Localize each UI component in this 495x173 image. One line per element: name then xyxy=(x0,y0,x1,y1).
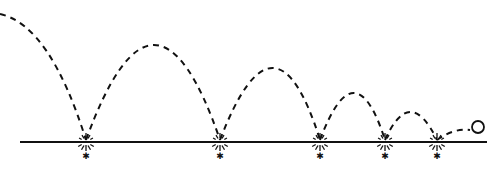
trajectory-segment-5 xyxy=(385,112,437,140)
ball-trajectory xyxy=(0,14,470,140)
diagram-canvas: ✱✱✱✱✱ xyxy=(0,0,495,173)
trajectory-segment-2 xyxy=(86,45,220,140)
impact-mark-icon: ✱ xyxy=(82,151,90,161)
impact-burst-icon: ✱ xyxy=(377,133,393,161)
impact-mark-icon: ✱ xyxy=(316,151,324,161)
impact-burst-icon: ✱ xyxy=(312,133,328,161)
impact-mark-icon: ✱ xyxy=(433,151,441,161)
ball-icon xyxy=(472,121,484,133)
impact-mark-icon: ✱ xyxy=(216,151,224,161)
impact-markers: ✱✱✱✱✱ xyxy=(78,133,445,161)
impact-burst-icon: ✱ xyxy=(78,133,94,161)
bouncing-ball-diagram: ✱✱✱✱✱ xyxy=(0,0,495,173)
trajectory-segment-4 xyxy=(320,93,385,140)
impact-burst-icon: ✱ xyxy=(212,133,228,161)
impact-burst-icon: ✱ xyxy=(429,133,445,161)
trajectory-segment-1 xyxy=(0,14,86,140)
impact-mark-icon: ✱ xyxy=(381,151,389,161)
trajectory-segment-3 xyxy=(220,68,320,140)
